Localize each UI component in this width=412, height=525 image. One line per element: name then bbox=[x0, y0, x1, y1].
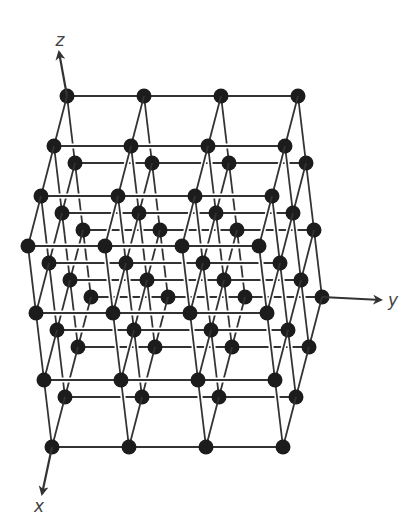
lattice-bond bbox=[62, 163, 75, 213]
lattice-bond bbox=[301, 230, 314, 280]
lattice-bond bbox=[224, 230, 237, 280]
lattice-bond bbox=[49, 263, 57, 330]
lattice-bond bbox=[288, 280, 301, 330]
lattice-bond bbox=[208, 96, 221, 146]
lattice-bond bbox=[155, 297, 168, 347]
lattice-atom bbox=[29, 306, 44, 321]
lattice-bond bbox=[57, 280, 70, 330]
lattice-bond bbox=[206, 397, 219, 447]
lattice-bond bbox=[221, 96, 229, 163]
lattice-bond bbox=[306, 163, 314, 230]
lattice-bond bbox=[54, 96, 67, 146]
lattice-bond bbox=[134, 330, 142, 397]
lattice-bond bbox=[293, 163, 306, 213]
lattice bbox=[21, 89, 330, 455]
lattice-bond bbox=[203, 213, 216, 263]
lattice-bond bbox=[275, 330, 288, 380]
lattice-bond bbox=[49, 213, 62, 263]
lattice-bond bbox=[129, 397, 142, 447]
lattice-bond bbox=[52, 397, 65, 447]
lattice-atom bbox=[122, 440, 137, 455]
lattice-bond bbox=[280, 213, 293, 263]
lattice-bond bbox=[296, 347, 309, 397]
lattice-atom bbox=[268, 373, 283, 388]
lattice-bond bbox=[28, 196, 41, 246]
lattice-bond bbox=[44, 330, 57, 380]
lattice-atom bbox=[252, 239, 267, 254]
crystal-lattice-diagram: z y x bbox=[0, 0, 412, 525]
lattice-bond bbox=[144, 96, 152, 163]
lattice-bond bbox=[267, 263, 280, 313]
lattice-atom bbox=[37, 373, 52, 388]
lattice-bond bbox=[198, 380, 206, 447]
lattice-bond bbox=[118, 146, 131, 196]
lattice-bond bbox=[182, 196, 195, 246]
lattice-bond bbox=[131, 146, 139, 213]
lattice-atom bbox=[183, 306, 198, 321]
lattice-bond bbox=[57, 330, 65, 397]
lattice-atom bbox=[199, 440, 214, 455]
y-axis-arrow bbox=[322, 297, 381, 300]
lattice-atom bbox=[260, 306, 275, 321]
lattice-atom bbox=[21, 239, 36, 254]
lattice-bond bbox=[70, 230, 83, 280]
lattice-bond bbox=[139, 163, 152, 213]
lattice-bond bbox=[285, 96, 298, 146]
lattice-bond bbox=[105, 196, 118, 246]
lattice-atom bbox=[98, 239, 113, 254]
lattice-bond bbox=[190, 263, 203, 313]
lattice-bond bbox=[41, 146, 54, 196]
lattice-bond bbox=[285, 146, 293, 213]
lattice-bond bbox=[126, 213, 139, 263]
lattice-bond bbox=[301, 280, 309, 347]
lattice-bond bbox=[195, 146, 208, 196]
lattice-bond bbox=[36, 263, 49, 313]
lattice-atom bbox=[191, 373, 206, 388]
x-axis-arrow bbox=[42, 447, 52, 494]
lattice-bond bbox=[44, 380, 52, 447]
lattice-bond bbox=[78, 297, 91, 347]
lattice-atom bbox=[114, 373, 129, 388]
lattice-bond bbox=[65, 347, 78, 397]
lattice-bond bbox=[36, 313, 44, 380]
lattice-bond bbox=[121, 330, 134, 380]
lattice-bond bbox=[198, 330, 211, 380]
lattice-bond bbox=[232, 297, 245, 347]
lattice-bond bbox=[293, 213, 301, 280]
lattice-bond bbox=[275, 380, 283, 447]
lattice-bond bbox=[211, 280, 224, 330]
lattice-bond bbox=[134, 280, 147, 330]
x-axis-label: x bbox=[33, 496, 45, 516]
lattice-atom bbox=[106, 306, 121, 321]
lattice-bond bbox=[216, 163, 229, 213]
lattice-bond bbox=[67, 96, 75, 163]
lattice-bond bbox=[121, 380, 129, 447]
lattice-bond bbox=[272, 146, 285, 196]
lattice-bond bbox=[28, 246, 36, 313]
z-axis-label: z bbox=[55, 30, 66, 50]
lattice-bond bbox=[288, 330, 296, 397]
lattice-bond bbox=[259, 196, 272, 246]
lattice-bond bbox=[283, 397, 296, 447]
y-axis-label: y bbox=[387, 290, 399, 310]
lattice-bond bbox=[298, 96, 306, 163]
lattice-bond bbox=[54, 146, 62, 213]
lattice-bond bbox=[208, 146, 216, 213]
lattice-bond bbox=[147, 230, 160, 280]
lattice-bond bbox=[113, 263, 126, 313]
lattice-bond bbox=[131, 96, 144, 146]
lattice-atom bbox=[175, 239, 190, 254]
lattice-bond bbox=[309, 297, 322, 347]
lattice-bond bbox=[211, 330, 219, 397]
z-axis-arrow bbox=[59, 52, 67, 96]
lattice-atom bbox=[276, 440, 291, 455]
lattice-bond bbox=[219, 347, 232, 397]
lattice-bond bbox=[314, 230, 322, 297]
lattice-bond bbox=[41, 196, 49, 263]
lattice-bond bbox=[142, 347, 155, 397]
